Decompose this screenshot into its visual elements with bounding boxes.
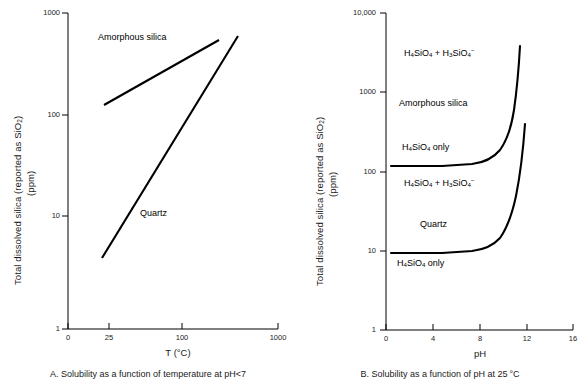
y-axis-title-b-close: ) bbox=[314, 117, 325, 120]
panel-a-caption: A. Solubility as a function of temperatu… bbox=[10, 369, 286, 379]
y-tick-label-b-1: 1 bbox=[332, 325, 376, 334]
annotation-amorphous-h4sio4-only-b: H4SiO4 only bbox=[402, 142, 449, 152]
y-axis-title-b-sub: 2 bbox=[318, 120, 325, 124]
annotation-upper-field-b: H4SiO4 + H3SiO4− bbox=[404, 47, 475, 58]
y-tick-label-a-1: 1 bbox=[22, 324, 60, 333]
sub-4f: 4 bbox=[411, 181, 414, 188]
panel-b-ph: 10,000 1000 100 10 1 0 4 8 12 16 H4SiO4 … bbox=[292, 0, 584, 388]
sub-4: 4 bbox=[411, 51, 414, 58]
series-label-quartz-a: Quartz bbox=[140, 208, 167, 218]
x-tick-label-a-0: 0 bbox=[54, 333, 82, 342]
annotation-quartz-field-b: Quartz bbox=[420, 219, 447, 229]
y-axis-units-b: (ppm) bbox=[327, 172, 338, 197]
annotation-middle-field-b: H4SiO4 + H3SiO4− bbox=[404, 177, 475, 188]
x-axis-title-b: pH bbox=[440, 348, 520, 359]
x-tick-label-b-16: 16 bbox=[559, 334, 584, 343]
sub-4d: 4 bbox=[409, 145, 412, 152]
sub-3: 3 bbox=[449, 51, 452, 58]
x-axis-title-a: T (°C) bbox=[118, 347, 238, 358]
annotation-amorphous-silica-field-b: Amorphous silica bbox=[399, 98, 468, 108]
series-label-amorphous-silica-a: Amorphous silica bbox=[98, 32, 167, 42]
sup-minus-2: − bbox=[471, 177, 475, 184]
y-axis-title-a-text: Total dissolved silica (reported as SiO bbox=[12, 123, 23, 285]
y-tick-label-a-1000: 1000 bbox=[22, 8, 60, 17]
y-tick-label-b-10: 10 bbox=[332, 246, 376, 255]
y-axis-units-a: (ppm) bbox=[25, 171, 36, 196]
sub-4i: 4 bbox=[404, 261, 407, 268]
y-tick-label-b-1000: 1000 bbox=[332, 87, 376, 96]
sub-4b: 4 bbox=[429, 51, 432, 58]
x-tick-label-b-4: 4 bbox=[419, 334, 447, 343]
y-tick-label-b-10000: 10,000 bbox=[332, 8, 376, 17]
y-axis-title-b: Total dissolved silica (reported as SiO2… bbox=[314, 117, 325, 286]
x-tick-label-b-12: 12 bbox=[513, 334, 541, 343]
y-axis-title-a-sub: 2 bbox=[16, 119, 23, 123]
sub-4j: 4 bbox=[422, 261, 425, 268]
sub-3b: 3 bbox=[449, 181, 452, 188]
panel-a-temperature: 1000 100 10 1 0 25 100 1000 Amorphous si… bbox=[0, 0, 292, 388]
annotation-quartz-h4sio4-only-b: H4SiO4 only bbox=[397, 258, 444, 268]
only-text-1: only bbox=[433, 142, 450, 152]
sup-minus: − bbox=[471, 47, 475, 54]
y-axis-title-a-close: ) bbox=[12, 116, 23, 119]
x-tick-label-a-1000: 1000 bbox=[264, 333, 292, 342]
only-text-2: only bbox=[428, 258, 445, 268]
y-axis-title-b-text: Total dissolved silica (reported as SiO bbox=[314, 124, 325, 286]
x-tick-label-a-100: 100 bbox=[168, 333, 196, 342]
panel-b-caption: B. Solubility as a function of pH at 25 … bbox=[300, 369, 580, 379]
series-line-quartz-a bbox=[102, 36, 238, 258]
silica-solubility-figure: 1000 100 10 1 0 25 100 1000 Amorphous si… bbox=[0, 0, 584, 388]
x-tick-label-a-25: 25 bbox=[95, 333, 123, 342]
sub-4e: 4 bbox=[427, 145, 430, 152]
y-tick-label-a-100: 100 bbox=[22, 110, 60, 119]
x-tick-label-b-8: 8 bbox=[466, 334, 494, 343]
sub-4g: 4 bbox=[429, 181, 432, 188]
x-tick-label-b-0: 0 bbox=[372, 334, 400, 343]
y-tick-label-b-100: 100 bbox=[332, 167, 376, 176]
y-axis-title-a: Total dissolved silica (reported as SiO2… bbox=[12, 116, 23, 285]
y-tick-label-a-10: 10 bbox=[22, 211, 60, 220]
